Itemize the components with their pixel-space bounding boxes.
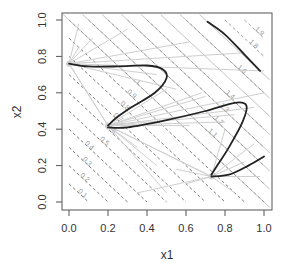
y-tick-label: 0.0: [36, 194, 48, 209]
contour-label: 0.8: [119, 100, 131, 112]
y-tick-label: 0.2: [36, 158, 48, 173]
y-tick-label: 0.8: [36, 49, 48, 64]
x-tick-label: 0.2: [100, 222, 115, 234]
fan-line: [108, 126, 211, 177]
fan-line: [108, 126, 137, 148]
fan-line: [211, 144, 254, 177]
contour-line-dashed: [69, 147, 128, 202]
gray-line-fans: [66, 24, 264, 193]
y-axis-title: x2: [10, 105, 24, 118]
contour-label: 0.1: [77, 187, 89, 199]
x-tick-label: 0.0: [61, 222, 76, 234]
y-axis: 0.00.20.40.60.81.0: [36, 12, 62, 209]
y-tick-label: 0.6: [36, 85, 48, 100]
contour-label: 0.4: [84, 139, 96, 151]
contour-label: 1.8: [248, 38, 260, 50]
contour-plot: 0.10.20.30.40.50.60.70.80.911.11.21.31.4…: [0, 0, 284, 270]
fan-line: [108, 126, 167, 193]
x-axis: 0.00.20.40.60.81.0: [61, 210, 271, 234]
contour-label: 1.1: [207, 127, 219, 139]
contour-label: 0.9: [126, 88, 138, 100]
curve-2: [108, 102, 247, 174]
contour-label: 0.2: [79, 171, 91, 183]
fan-line: [176, 169, 211, 176]
contour-label: 0.5: [99, 135, 111, 147]
fan-line: [69, 53, 245, 64]
y-tick-label: 0.4: [36, 122, 48, 137]
x-tick-label: 0.6: [178, 222, 193, 234]
y-tick-label: 1.0: [36, 12, 48, 27]
x-tick-label: 0.8: [217, 222, 232, 234]
contour-lines: 0.10.20.30.40.50.60.70.80.911.11.21.31.4…: [63, 15, 270, 208]
x-tick-label: 1.0: [256, 222, 271, 234]
contour-label: 1.6: [236, 63, 248, 75]
x-axis-title: x1: [161, 248, 174, 262]
contour-label: 1.9: [254, 25, 266, 37]
contour-line-dashed: [69, 56, 225, 202]
contour-label: 0.3: [82, 155, 94, 167]
fan-line: [211, 177, 234, 193]
contour-line-dashed: [69, 166, 108, 202]
fan-line: [137, 177, 211, 193]
x-tick-label: 0.4: [139, 222, 154, 234]
